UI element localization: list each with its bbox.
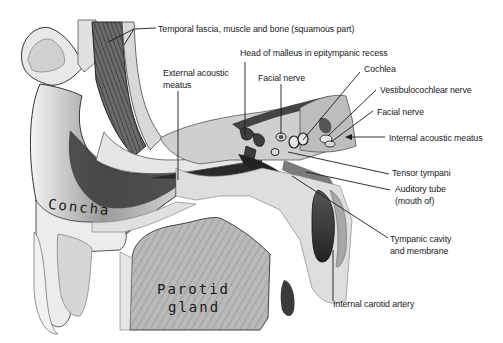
label-parotid-line2: gland [168,299,220,315]
label-tensor-tympani: Tensor tympani [392,167,451,178]
label-tympanic-cavity-line2: and membrane [390,245,448,256]
label-facial-nerve-right: Facial nerve [377,106,424,117]
label-parotid-line1: Parotid [157,281,230,297]
label-cochlea: Cochlea [364,63,396,74]
label-vestibulocochlear-nerve: Vestibulocochlear nerve [380,84,472,95]
label-facial-nerve-top: Facial nerve [258,72,305,83]
label-internal-carotid-artery: Internal carotid artery [333,298,414,309]
label-internal-acoustic-meatus: Internal acoustic meatus [389,132,482,143]
label-external-acoustic-meatus-line1: External acoustic [163,67,229,78]
label-tympanic-cavity-line1: Tympanic cavity [390,233,451,244]
label-head-of-malleus: Head of malleus in epitympanic recess [240,47,388,58]
label-auditory-tube-line1: Auditory tube [395,183,446,194]
label-external-acoustic-meatus-line2: meatus [163,79,191,90]
label-temporal-fascia: Temporal fascia, muscle and bone (squamo… [158,23,354,34]
label-auditory-tube-line2: (mouth of) [395,195,434,206]
ear-section-diagram: Temporal fascia, muscle and bone (squamo… [0,0,503,343]
